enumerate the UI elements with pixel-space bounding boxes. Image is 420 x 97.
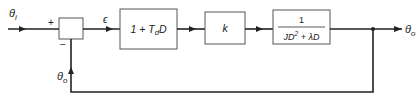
- feedback-arrow-icon: [68, 67, 74, 74]
- output-label: θo: [405, 23, 416, 38]
- arrow-1-2-icon: [189, 26, 196, 32]
- block-gain-label: k: [222, 22, 228, 34]
- block-plant-numerator: 1: [299, 15, 304, 25]
- block-derivative-controller-label: 1 + TdD: [131, 23, 167, 37]
- block-diagram: θi + − ϵ 1 + TdD k 1 JD2 + λD θo θo: [0, 0, 420, 97]
- plus-sign: +: [48, 17, 54, 28]
- minus-sign: −: [60, 39, 66, 50]
- input-label: θi: [9, 7, 17, 22]
- summing-junction: [59, 18, 83, 39]
- arrow-2-3-icon: [256, 26, 263, 32]
- error-arrow-icon: [106, 26, 113, 32]
- feedback-label: θo: [57, 70, 68, 85]
- output-arrow-icon: [394, 26, 402, 32]
- input-arrow-icon: [19, 26, 26, 32]
- error-label: ϵ: [103, 14, 108, 25]
- block-plant-denominator: JD2 + λD: [283, 30, 320, 42]
